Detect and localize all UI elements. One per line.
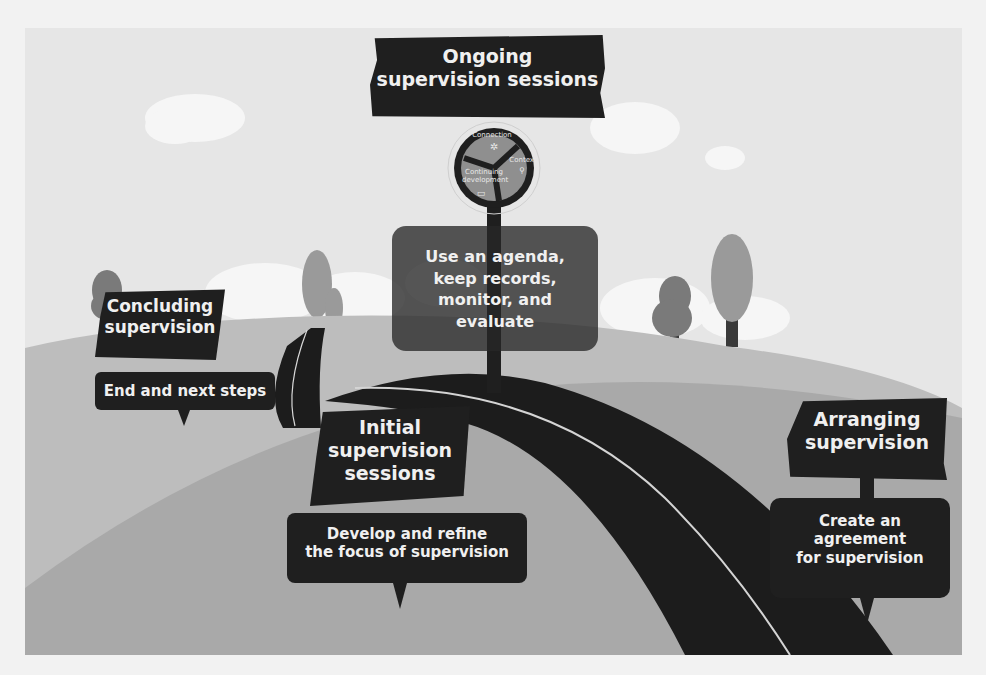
- initial-sessions-sign: Initial supervision sessions: [310, 406, 470, 506]
- star-people-icon: ✲: [487, 141, 501, 152]
- pointer-down-icon: [860, 598, 874, 624]
- segment-development-label: Continuing development: [462, 168, 506, 184]
- sign-post: [860, 478, 874, 500]
- initial-step-box: Develop and refine the focus of supervis…: [287, 513, 527, 583]
- segment-connection-label: Connection: [472, 131, 512, 139]
- pointer-down-icon: [393, 583, 407, 609]
- ongoing-sessions-sign: Ongoing supervision sessions: [370, 35, 605, 118]
- map-pin-icon: ⚲: [515, 166, 529, 175]
- concluding-supervision-sign: Concluding supervision: [95, 288, 225, 360]
- supervision-journey-diagram: Connection ✲ Context ⚲ Continuing develo…: [25, 28, 962, 655]
- arranging-supervision-sign: Arranging supervision: [787, 398, 947, 480]
- arranging-step-box: Create an agreement for supervision: [770, 498, 950, 598]
- segment-context-label: Context: [508, 156, 538, 164]
- ongoing-activities-box: Use an agenda, keep records, monitor, an…: [392, 226, 598, 351]
- concluding-step-box: End and next steps: [95, 372, 275, 410]
- monitor-icon: ▭: [474, 188, 488, 198]
- pointer-down-icon: [178, 410, 190, 426]
